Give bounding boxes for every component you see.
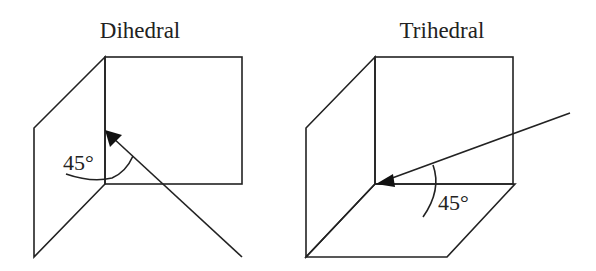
dihedral-incident-ray bbox=[112, 137, 242, 257]
dihedral-title: Dihedral bbox=[100, 18, 180, 43]
trihedral-figure: Trihedral 45° bbox=[306, 18, 570, 257]
trihedral-incident-ray bbox=[384, 113, 570, 181]
dihedral-angle-label: 45° bbox=[63, 150, 94, 175]
trihedral-angle-label: 45° bbox=[438, 190, 469, 215]
dihedral-figure: Dihedral 45° bbox=[34, 18, 242, 257]
trihedral-floor-panel bbox=[306, 184, 515, 257]
trihedral-side-panel bbox=[306, 57, 375, 257]
trihedral-arrowhead-icon bbox=[376, 174, 395, 187]
trihedral-back-panel bbox=[375, 57, 513, 184]
trihedral-title: Trihedral bbox=[400, 18, 485, 43]
trihedral-angle-arc bbox=[423, 165, 436, 217]
dihedral-back-panel bbox=[105, 57, 242, 184]
reflector-diagram: Dihedral 45° Trihedral 45° bbox=[0, 0, 596, 271]
